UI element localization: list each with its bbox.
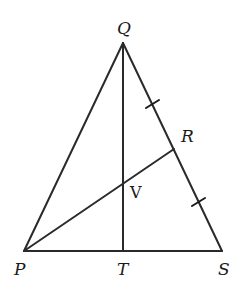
segment-pr	[24, 149, 174, 251]
label-v: V	[129, 183, 142, 202]
label-s: S	[218, 259, 230, 279]
triangle-pqs-diagram: Q R V P T S	[0, 0, 240, 286]
segment-pq	[24, 43, 123, 251]
segment-qs	[123, 43, 222, 251]
label-r: R	[180, 126, 194, 146]
label-t: T	[117, 259, 130, 279]
congruence-tick-rs	[192, 198, 205, 206]
label-p: P	[13, 259, 26, 279]
label-q: Q	[117, 18, 131, 38]
